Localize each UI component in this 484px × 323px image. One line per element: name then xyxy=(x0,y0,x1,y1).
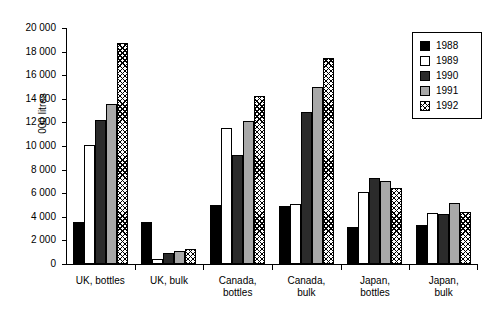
legend-label: 1989 xyxy=(436,55,458,66)
x-tick xyxy=(477,265,478,270)
legend-item-1991[interactable]: 1991 xyxy=(413,83,481,98)
bar-group xyxy=(203,28,272,264)
bar-group xyxy=(135,28,204,264)
bar-1992 xyxy=(323,58,334,265)
bar-1991 xyxy=(243,121,254,264)
y-tick-label: 0 xyxy=(0,259,56,269)
bar-group xyxy=(272,28,341,264)
legend: 19881989199019911992 xyxy=(412,32,482,119)
x-tick xyxy=(409,265,410,270)
legend-label: 1988 xyxy=(436,40,458,51)
legend-label: 1990 xyxy=(436,70,458,81)
bar-1991 xyxy=(312,87,323,264)
bar-1992 xyxy=(460,212,471,264)
bar-1991 xyxy=(449,203,460,264)
legend-swatch-1989 xyxy=(420,56,430,66)
legend-swatch-1988 xyxy=(420,41,430,51)
y-tick-label: 2 000 xyxy=(0,235,56,245)
bar-1988 xyxy=(73,222,84,264)
legend-swatch-1992 xyxy=(420,101,430,111)
bar-1988 xyxy=(347,227,358,264)
legend-label: 1991 xyxy=(436,85,458,96)
bar-1990 xyxy=(163,253,174,264)
bar-1990 xyxy=(95,120,106,264)
legend-item-1989[interactable]: 1989 xyxy=(413,53,481,68)
y-tick-label: 8 000 xyxy=(0,165,56,175)
legend-swatch-1991 xyxy=(420,86,430,96)
bar-1990 xyxy=(369,178,380,264)
bar-1988 xyxy=(279,206,290,264)
bar-1988 xyxy=(416,225,427,264)
x-tick xyxy=(341,265,342,270)
bar-1992 xyxy=(117,43,128,264)
bar-1990 xyxy=(438,214,449,264)
bar-1988 xyxy=(141,222,152,264)
bar-1991 xyxy=(380,181,391,264)
bar-1991 xyxy=(106,104,117,264)
legend-item-1992[interactable]: 1992 xyxy=(413,98,481,113)
y-tick-label: 12 000 xyxy=(0,117,56,127)
x-category-label: Japan, bulk xyxy=(399,275,484,299)
y-tick-label: 6 000 xyxy=(0,188,56,198)
x-tick xyxy=(272,265,273,270)
y-tick-label: 20 000 xyxy=(0,23,56,33)
legend-swatch-1990 xyxy=(420,71,430,81)
y-tick-label: 4 000 xyxy=(0,212,56,222)
legend-item-1990[interactable]: 1990 xyxy=(413,68,481,83)
y-tick xyxy=(62,264,67,265)
bar-1989 xyxy=(427,213,438,264)
y-tick-label: 18 000 xyxy=(0,47,56,57)
legend-item-1988[interactable]: 1988 xyxy=(413,38,481,53)
bar-1990 xyxy=(301,112,312,264)
bar-1992 xyxy=(391,188,402,264)
y-tick-label: 14 000 xyxy=(0,94,56,104)
bar-1988 xyxy=(210,205,221,264)
x-tick xyxy=(135,265,136,270)
bar-1991 xyxy=(174,251,185,264)
bar-1989 xyxy=(84,145,95,264)
x-tick xyxy=(203,265,204,270)
bar-group xyxy=(341,28,410,264)
legend-label: 1992 xyxy=(436,100,458,111)
bar-1989 xyxy=(221,128,232,264)
bar-1989 xyxy=(152,259,163,264)
bar-1992 xyxy=(185,249,196,264)
bar-group xyxy=(66,28,135,264)
bar-1990 xyxy=(232,155,243,264)
bar-1992 xyxy=(254,96,265,264)
bar-1989 xyxy=(358,192,369,264)
y-tick-label: 10 000 xyxy=(0,141,56,151)
bar-1989 xyxy=(290,204,301,264)
bar-chart: 000 litres 20 00018 00016 00014 00012 00… xyxy=(0,0,484,323)
y-tick-label: 16 000 xyxy=(0,70,56,80)
